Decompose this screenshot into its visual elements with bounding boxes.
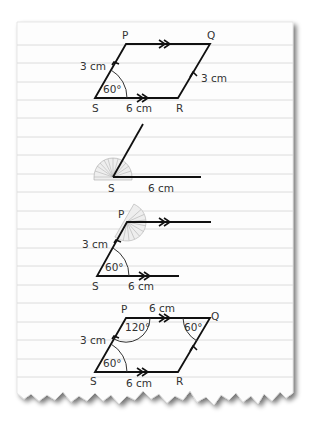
vertex-label-s: S (90, 375, 97, 387)
side-label-qr: 3 cm (201, 72, 227, 84)
side-label-sp: 3 cm (80, 60, 106, 72)
vertex-label-r: R (176, 102, 183, 114)
vertex-label-s: S (108, 182, 115, 194)
notebook-page: P Q S R 3 cm 3 cm 6 cm 60° S 6 cm (0, 0, 312, 429)
angle-label-s: 60° (103, 357, 122, 369)
vertex-label-s: S (92, 102, 99, 114)
side-label-sp: 3 cm (80, 334, 106, 346)
side-label-sr: 6 cm (128, 280, 154, 292)
angle-label-p: 120° (125, 321, 150, 333)
side-label-sr: 6 cm (126, 102, 152, 114)
side-label-sr: 6 cm (126, 377, 152, 389)
side-label-pq: 6 cm (149, 302, 175, 314)
angle-label-q: 60° (184, 321, 203, 333)
vertex-label-p: P (118, 208, 124, 220)
side-label-sp: 3 cm (82, 238, 108, 250)
vertex-label-p: P (121, 303, 127, 315)
vertex-label-s: S (92, 280, 99, 292)
side-label-base: 6 cm (148, 182, 174, 194)
paper-sheet (17, 22, 293, 405)
vertex-label-q: Q (211, 310, 219, 322)
angle-label-s: 60° (103, 83, 122, 95)
vertex-label-p: P (122, 29, 128, 41)
vertex-label-q: Q (207, 29, 215, 41)
vertex-label-r: R (176, 375, 183, 387)
angle-label-s: 60° (105, 261, 124, 273)
